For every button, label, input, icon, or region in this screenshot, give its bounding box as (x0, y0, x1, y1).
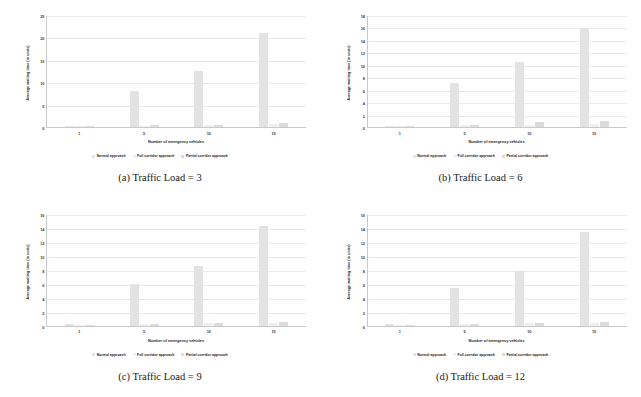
bar-b-10-s1 (515, 62, 524, 127)
panel-caption-d: (d) Traffic Load = 12 (321, 371, 641, 382)
bar-group: 15 (562, 16, 627, 127)
bar-c-15-s1 (259, 226, 268, 325)
bar-c-5-s1 (130, 284, 139, 326)
y-axis-tick-label: 15 (40, 58, 44, 63)
y-axis-tick-label: 10 (361, 63, 365, 68)
bar-d-5-s1 (450, 288, 459, 325)
y-axis-tick-label: 0 (363, 126, 365, 131)
legend-label: Normal approach (97, 154, 126, 158)
y-axis-title: Average waiting time (in units) (347, 217, 357, 327)
x-axis-tick-label: 5 (143, 131, 145, 136)
bar-b-15-s1 (580, 28, 589, 127)
y-axis-tick-label: 8 (42, 268, 44, 273)
bar-a-10-s3 (214, 125, 223, 127)
x-axis-title: Number of emergency vehicles (46, 339, 306, 343)
legend-swatch-icon (92, 353, 95, 356)
y-axis-tick-label: 2 (363, 113, 365, 118)
bar-a-1-s3 (85, 126, 94, 127)
y-axis-tick-label: 10 (40, 254, 44, 259)
legend-swatch-icon (181, 155, 184, 158)
legend-label: Partial corridor approach (186, 154, 228, 158)
bar-series-container: 151015 (47, 16, 306, 127)
legend-item-1[interactable]: Normal approach (92, 353, 125, 357)
y-axis-tick-label: 0 (42, 324, 44, 329)
panel-caption-a: (a) Traffic Load = 3 (0, 172, 320, 183)
bar-b-5-s2 (460, 125, 469, 127)
y-axis-tick-label: 14 (361, 226, 365, 231)
x-axis-tick-label: 10 (207, 131, 211, 136)
bar-d-15-s2 (590, 323, 599, 325)
legend-item-3[interactable]: Partial corridor approach (181, 154, 227, 158)
chart-panel-b: Average waiting time (in units)024681012… (321, 0, 641, 198)
bar-c-10-s2 (204, 323, 213, 325)
bar-series-container: 151015 (368, 215, 627, 326)
legend-label: Normal approach (417, 154, 446, 158)
bar-group: 5 (112, 215, 177, 326)
x-axis-tick-label: 15 (271, 131, 275, 136)
y-axis-tick-label: 6 (363, 88, 365, 93)
bar-b-15-s3 (600, 121, 609, 127)
y-axis-tick-label: 8 (363, 268, 365, 273)
y-axis-tick-label: 14 (40, 226, 44, 231)
bar-d-1-s2 (395, 325, 404, 326)
bar-group: 10 (177, 215, 242, 326)
bar-group: 15 (241, 16, 306, 127)
legend-item-2[interactable]: Full corridor approach (453, 154, 495, 158)
legend-item-1[interactable]: Normal approach (413, 353, 446, 357)
bar-c-15-s3 (279, 322, 288, 326)
bar-group: 15 (562, 215, 627, 326)
legend-swatch-icon (502, 353, 505, 356)
plot-area: 0510152025151015 (46, 16, 306, 128)
chart-panel-a: Average waiting time (in units)051015202… (0, 0, 320, 198)
legend-item-2[interactable]: Full corridor approach (133, 353, 175, 357)
x-axis-tick-label: 15 (592, 131, 596, 136)
legend-item-2[interactable]: Full corridor approach (133, 154, 175, 158)
y-axis-tick-label: 8 (363, 76, 365, 81)
bar-c-15-s2 (269, 323, 278, 326)
bar-d-5-s3 (470, 324, 479, 326)
bar-c-5-s3 (150, 324, 159, 326)
x-axis-tick-label: 10 (527, 329, 531, 334)
bar-a-5-s3 (150, 125, 159, 127)
bar-b-1-s3 (405, 126, 414, 127)
x-axis-tick-label: 15 (592, 329, 596, 334)
bar-b-10-s2 (525, 125, 534, 127)
bar-group: 10 (177, 16, 242, 127)
y-axis-tick-label: 12 (361, 240, 365, 245)
bar-c-1-s3 (85, 325, 94, 326)
bar-a-15-s2 (269, 124, 278, 127)
x-axis-tick-label: 10 (527, 131, 531, 136)
y-axis-tick-label: 2 (363, 310, 365, 315)
bar-a-15-s3 (279, 123, 288, 127)
panel-caption-b: (b) Traffic Load = 6 (321, 172, 641, 183)
y-axis-title: Average waiting time (in units) (347, 18, 357, 128)
legend-label: Full corridor approach (137, 353, 174, 357)
y-axis-tick-label: 2 (42, 310, 44, 315)
legend-item-3[interactable]: Partial corridor approach (181, 353, 227, 357)
y-axis-tick-label: 0 (42, 126, 44, 131)
legend-item-1[interactable]: Normal approach (92, 154, 125, 158)
bar-d-1-s1 (385, 324, 394, 325)
bar-c-1-s2 (75, 325, 84, 326)
legend-swatch-icon (453, 353, 456, 356)
legend-item-2[interactable]: Full corridor approach (453, 353, 495, 357)
legend-item-3[interactable]: Partial corridor approach (502, 353, 548, 357)
y-axis-tick-label: 4 (363, 296, 365, 301)
y-axis-tick-label: 12 (361, 51, 365, 56)
legend-swatch-icon (133, 353, 136, 356)
legend-label: Full corridor approach (137, 154, 174, 158)
x-axis-tick-label: 5 (143, 329, 145, 334)
legend-item-1[interactable]: Normal approach (413, 154, 446, 158)
bar-group: 10 (497, 16, 562, 127)
plot-area: 0246810121416151015 (367, 215, 627, 327)
y-axis-tick-label: 5 (42, 103, 44, 108)
x-axis-tick-label: 5 (464, 131, 466, 136)
bar-a-5-s2 (140, 126, 149, 127)
legend-item-3[interactable]: Partial corridor approach (502, 154, 548, 158)
legend-swatch-icon (413, 155, 416, 158)
bar-b-15-s2 (590, 124, 599, 127)
y-axis-title: Average waiting time (in units) (26, 217, 36, 327)
y-axis-tick-label: 14 (361, 38, 365, 43)
x-axis-tick-label: 15 (271, 329, 275, 334)
bar-d-10-s3 (535, 323, 544, 325)
